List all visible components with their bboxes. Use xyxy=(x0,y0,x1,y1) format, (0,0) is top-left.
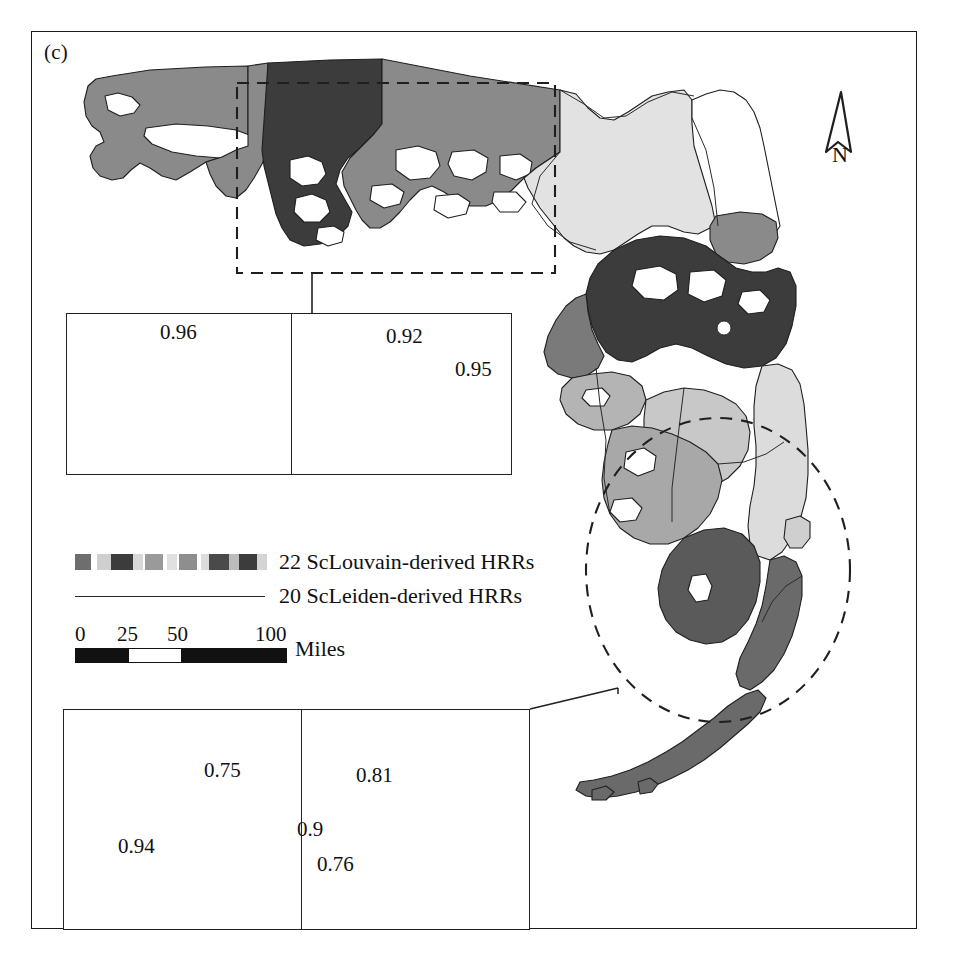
leader-line-bottom-inset xyxy=(530,688,618,709)
legend-label-louvain: 22 ScLouvain-derived HRRs xyxy=(279,551,534,573)
hrr-polygon-keys xyxy=(576,690,766,798)
inset-bottom-value-081: 0.81 xyxy=(356,763,393,788)
inset-bottom-value-075: 0.75 xyxy=(204,758,241,783)
inset-top-value-095: 0.95 xyxy=(455,357,492,382)
scale-tick-50: 50 xyxy=(167,622,188,647)
north-arrow-label: N xyxy=(832,142,848,168)
scale-seg-3 xyxy=(181,649,286,662)
inset-top-value-092: 0.92 xyxy=(386,324,423,349)
legend-row-leiden: 20 ScLeiden-derived HRRs xyxy=(75,579,495,613)
scale-seg-1 xyxy=(76,649,129,662)
scale-seg-2 xyxy=(129,649,182,662)
inset-top xyxy=(66,313,512,475)
scale-tick-0: 0 xyxy=(75,622,86,647)
scale-bar-units: Miles xyxy=(295,636,345,662)
scale-bar: 0 25 50 100 Miles xyxy=(75,622,335,663)
legend-swatch-louvain-band xyxy=(75,554,265,570)
scale-tick-100: 100 xyxy=(255,622,287,647)
inset-top-value-096: 0.96 xyxy=(160,320,197,345)
scale-bar-graphic xyxy=(75,648,287,663)
legend-swatch-leiden-line xyxy=(75,596,265,597)
inset-bottom-value-076: 0.76 xyxy=(317,852,354,877)
figure-canvas: (c) xyxy=(0,0,953,962)
legend: 22 ScLouvain-derived HRRs 20 ScLeiden-de… xyxy=(75,545,495,613)
inset-bottom-value-09: 0.9 xyxy=(297,817,323,842)
hole-ph-e6 xyxy=(492,192,526,212)
hrr-polygon-palm-pale xyxy=(784,516,810,548)
inset-bottom-value-094: 0.94 xyxy=(118,834,155,859)
legend-label-leiden: 20 ScLeiden-derived HRRs xyxy=(279,585,522,607)
hole-central-dot xyxy=(717,321,731,335)
scale-tick-25: 25 xyxy=(117,622,138,647)
inset-top-divider xyxy=(291,314,292,474)
legend-row-louvain: 22 ScLouvain-derived HRRs xyxy=(75,545,495,579)
